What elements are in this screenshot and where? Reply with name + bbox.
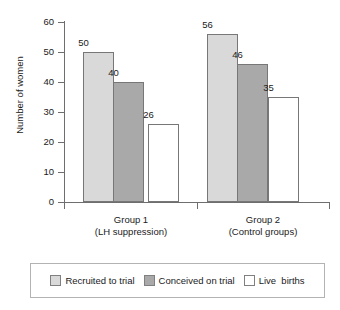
legend-swatch-icon-recruited: [50, 275, 61, 286]
x-tick-mark-left: [64, 203, 65, 209]
legend-swatch-icon-livebirths: [244, 275, 255, 286]
chart-legend: Recruited to trial Conceived on trial Li…: [30, 263, 325, 298]
bar-value-group1-recruited: 50: [68, 38, 99, 48]
x-category-label-group2: Group 2 (Control groups): [198, 214, 328, 238]
bar-value-group1-livebirths: 26: [133, 110, 164, 120]
y-tick-label-20: 20: [14, 137, 54, 147]
x-category-name-group2: Group 2: [198, 214, 328, 226]
plot-area: [65, 22, 330, 202]
y-tick-label-10: 10: [14, 167, 54, 177]
legend-item-recruited[interactable]: Recruited to trial: [50, 275, 134, 286]
legend-swatch-icon-conceived: [144, 275, 155, 286]
bar-value-group2-livebirths: 35: [253, 83, 284, 93]
x-category-sub-group2: (Control groups): [198, 226, 328, 238]
bar-value-group2-recruited: 56: [192, 20, 223, 30]
legend-label-livebirths: Live births: [259, 276, 305, 286]
y-tick-label-30: 30: [14, 107, 54, 117]
y-tick-label-60: 60: [14, 17, 54, 27]
x-category-name-group1: Group 1: [66, 214, 196, 226]
legend-label-recruited: Recruited to trial: [65, 276, 134, 286]
legend-item-livebirths[interactable]: Live births: [244, 275, 305, 286]
x-category-label-group1: Group 1 (LH suppression): [66, 214, 196, 238]
x-tick-mark-right: [329, 203, 330, 209]
bar-group1-conceived[interactable]: [113, 82, 144, 202]
bar-value-group1-conceived: 40: [98, 68, 129, 78]
bar-chart-figure: Number of women 60 50 40 30 20 10 0 50 4…: [0, 0, 340, 310]
bar-group2-livebirths[interactable]: [268, 97, 299, 202]
bar-value-group2-conceived: 46: [222, 50, 253, 60]
bar-group1-livebirths[interactable]: [148, 124, 179, 202]
y-tick-label-40: 40: [14, 77, 54, 87]
legend-item-conceived[interactable]: Conceived on trial: [144, 275, 235, 286]
x-category-sub-group1: (LH suppression): [66, 226, 196, 238]
x-tick-mark-middle: [197, 203, 198, 209]
y-tick-label-0: 0: [14, 197, 54, 207]
y-tick-label-50: 50: [14, 47, 54, 57]
legend-label-conceived: Conceived on trial: [159, 276, 235, 286]
